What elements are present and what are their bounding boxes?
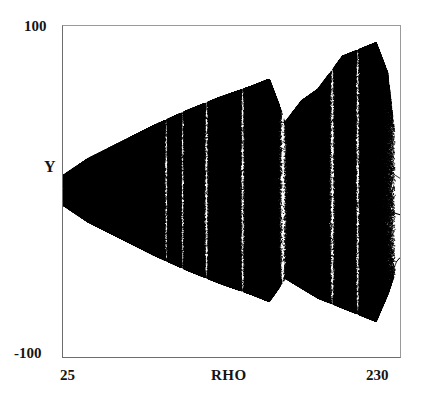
- y-axis-title: Y: [44, 158, 56, 176]
- y-axis-max-label: 100: [24, 18, 47, 35]
- x-axis-title: RHO: [211, 367, 247, 384]
- x-axis-max-label: 230: [366, 367, 389, 384]
- y-axis-min-label: -100: [14, 345, 42, 362]
- x-axis-min-label: 25: [60, 367, 75, 384]
- bifurcation-plot-canvas: [63, 26, 400, 357]
- bifurcation-figure: 100 -100 Y 25 RHO 230: [0, 0, 441, 416]
